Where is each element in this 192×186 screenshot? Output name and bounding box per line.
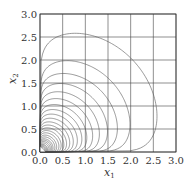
y-tick-label: 2.0 [21,55,37,66]
x-tick-labels: 0.00.51.01.52.02.53.0 [32,155,184,166]
contour-line [40,61,130,152]
y-tick-label: 3.0 [21,9,37,20]
x-tick-label: 0.5 [55,155,71,166]
x-tick-label: 3.0 [168,155,184,166]
y-tick-label: 2.5 [21,32,37,43]
y-tick-labels: 0.00.51.01.52.02.53.0 [21,9,37,158]
y-tick-label: 1.0 [21,101,37,112]
contour-line [40,33,157,152]
y-tick-label: 1.5 [21,78,37,89]
grid-lines [40,14,176,152]
x-axis-label: x1 [104,166,115,180]
contour-lines [40,33,157,152]
x-tick-label: 1.0 [77,155,93,166]
y-axis-label: x2 [6,73,20,84]
x-tick-label: 2.5 [145,155,161,166]
contour-chart: 0.00.51.01.52.02.53.0 0.00.51.01.52.02.5… [0,0,192,186]
y-tick-label: 0.0 [21,147,37,158]
x-tick-label: 1.5 [100,155,116,166]
y-tick-label: 0.5 [21,124,37,135]
x-tick-label: 2.0 [123,155,139,166]
